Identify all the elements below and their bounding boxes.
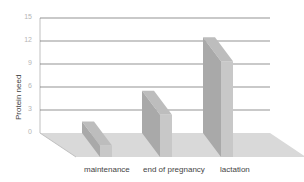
y-tick-15: 15 — [18, 13, 32, 20]
y-tick-9: 9 — [18, 59, 32, 66]
y-tick-12: 12 — [18, 36, 32, 43]
y-tick-6: 6 — [18, 82, 32, 89]
x-category-end-of-pregnancy: end of pregnancy — [143, 165, 205, 174]
x-category-lactation: lactation — [220, 165, 250, 174]
y-tick-0: 0 — [18, 128, 32, 135]
bar-front — [160, 115, 172, 157]
plot-area — [0, 0, 304, 182]
bar-front — [221, 61, 233, 157]
y-tick-3: 3 — [18, 105, 32, 112]
x-category-maintenance: maintenance — [84, 165, 130, 174]
protein-need-chart: Protein need 0 3 6 9 12 15 maintenance e… — [0, 0, 304, 182]
bar-front — [100, 146, 112, 158]
